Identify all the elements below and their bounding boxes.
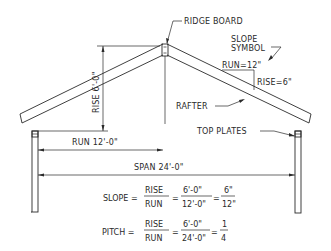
rise-label: RISE 6'-0" bbox=[92, 71, 101, 113]
svg-text:6'-0": 6'-0" bbox=[183, 186, 202, 195]
svg-text:=: = bbox=[213, 194, 220, 203]
svg-text:=: = bbox=[172, 194, 179, 203]
svg-text:24'-0": 24'-0" bbox=[182, 234, 206, 243]
slope-rise-label: RISE=6" bbox=[257, 78, 292, 87]
svg-text:1: 1 bbox=[222, 220, 227, 229]
top-plates-label: TOP PLATES bbox=[196, 127, 247, 136]
svg-text:12": 12" bbox=[222, 200, 236, 209]
svg-text:6'-0": 6'-0" bbox=[183, 220, 202, 229]
svg-text:PITCH =: PITCH = bbox=[102, 228, 134, 237]
right-wall bbox=[295, 131, 301, 213]
svg-text:6": 6" bbox=[224, 186, 233, 195]
ridge-board-label: RIDGE BOARD bbox=[184, 17, 243, 26]
pitch-formula: PITCH = RISE RUN = 6'-0" 24'-0" = 1 4 bbox=[102, 220, 228, 243]
svg-text:RUN: RUN bbox=[145, 200, 162, 209]
slope-symbol-label-1: SLOPE bbox=[231, 35, 257, 44]
ridge-board bbox=[162, 44, 168, 56]
slope-symbol: SLOPE SYMBOL RUN=12" RISE=6" bbox=[222, 35, 292, 90]
svg-text:RISE: RISE bbox=[145, 220, 163, 229]
top-plates-callout: TOP PLATES bbox=[196, 127, 295, 137]
rafter-label: RAFTER bbox=[176, 102, 208, 111]
svg-text:12'-0": 12'-0" bbox=[182, 200, 206, 209]
slope-formula: SLOPE = RISE RUN = 6'-0" 12'-0" = 6" 12" bbox=[103, 186, 236, 209]
svg-text:=: = bbox=[211, 228, 218, 237]
svg-text:=: = bbox=[172, 228, 179, 237]
span-label: SPAN 24'-0" bbox=[134, 163, 184, 172]
svg-text:SLOPE =: SLOPE = bbox=[103, 194, 138, 203]
rise-dimension: RISE 6'-0" bbox=[38, 46, 160, 131]
roof-framing-diagram: RISE 6'-0" RUN 12'-0" SPAN 24'-0" RIDGE … bbox=[0, 0, 331, 251]
run-dimension: RUN 12'-0" bbox=[38, 138, 163, 152]
slope-run-label: RUN=12" bbox=[222, 61, 261, 70]
svg-text:4: 4 bbox=[221, 234, 226, 243]
svg-text:RISE: RISE bbox=[145, 186, 163, 195]
run-label: RUN 12'-0" bbox=[72, 138, 118, 147]
rafter-callout: RAFTER bbox=[176, 99, 245, 111]
slope-symbol-label-2: SYMBOL bbox=[231, 44, 266, 53]
left-wall bbox=[31, 131, 38, 212]
svg-text:RUN: RUN bbox=[145, 234, 162, 243]
span-dimension: SPAN 24'-0" bbox=[38, 163, 295, 177]
